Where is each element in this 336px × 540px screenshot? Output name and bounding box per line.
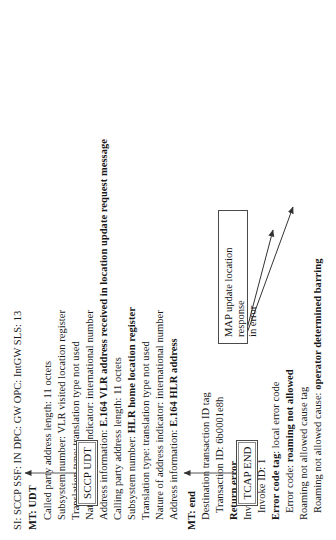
map-callout-line-2: in error	[247, 217, 259, 337]
calling-party-subsystem-number: Subsystem number: HLR home location regi…	[126, 307, 137, 520]
calling-party-translation-type: Translation type: translation type not u…	[140, 341, 151, 520]
calling-party-address-information: Address information: E.164 HLR address	[168, 338, 179, 520]
calling-party-address-information-label: Address information:	[168, 427, 179, 520]
protocol-trace: SI: SCCP SSF: IN DPC: GW OPC: IntGW SLS:…	[0, 0, 336, 540]
tcap-roaming-not-allowed-cause: Roaming not allowed cause: operator dete…	[312, 259, 323, 513]
called-party-subsystem-number: Subsystem number: VLR visited location r…	[56, 310, 67, 520]
calling-party-address-information-value: E.164 HLR address	[168, 338, 179, 426]
sccp-header-line: SI: SCCP SSF: IN DPC: GW OPC: IntGW SLS:…	[12, 311, 23, 530]
calling-party-nature-of-address: Nature of address indicator: internation…	[154, 310, 165, 520]
tcap-error-code-value: roaming not allowed	[284, 369, 295, 462]
calling-party-subsystem-number-value: HLR home location register	[126, 307, 137, 433]
tcap-error-code-tag-label: Error code tag	[270, 454, 281, 520]
tcap-transaction-id: Transaction ID: 6b0001e8h	[214, 397, 225, 513]
sccp-udt-box: SCCP UDT	[76, 440, 98, 506]
tcap-message-type: MT: end	[186, 491, 197, 530]
map-callout-line-1: MAP update location response	[223, 217, 247, 337]
map-update-location-response-callout: MAP update location response in error	[218, 210, 248, 344]
called-party-address-information-label: Address information:	[98, 427, 109, 520]
called-party-address-length: Called party address length: 11 octets	[42, 361, 53, 520]
sccp-message-type: MT: UDT	[27, 485, 38, 530]
figure-canvas: SI: SCCP SSF: IN DPC: GW OPC: IntGW SLS:…	[0, 0, 336, 540]
tcap-end-box: TCAP END	[236, 440, 258, 506]
tcap-error-code-tag: Error code tag: local error code	[270, 381, 281, 520]
calling-party-address-length: Calling party address length: 11 octets	[112, 357, 123, 520]
tcap-roaming-not-allowed-cause-tag: Roaming not allowed cause tag	[298, 387, 309, 520]
called-party-address-information-value: E.164 VLR address received in location u…	[98, 139, 109, 427]
tcap-roaming-not-allowed-cause-label: Roaming not allowed cause:	[312, 390, 323, 513]
tcap-destination-transaction-id-tag: Destination transaction ID tag	[200, 392, 211, 520]
tcap-error-code-tag-value: : local error code	[270, 381, 281, 453]
calling-party-subsystem-number-label: Subsystem number:	[126, 433, 137, 520]
called-party-address-information: Address information: E.164 VLR address r…	[98, 139, 109, 520]
tcap-roaming-not-allowed-cause-value: operator determined barring	[312, 259, 323, 390]
tcap-error-code-label: Error code:	[284, 462, 295, 513]
tcap-error-code: Error code: roaming not allowed	[284, 369, 295, 513]
